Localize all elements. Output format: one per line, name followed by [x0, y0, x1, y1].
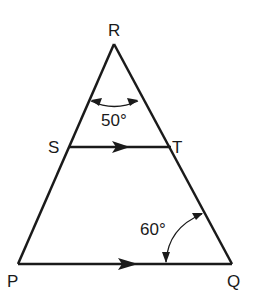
- arc-arrow-icon-top: [192, 213, 203, 220]
- vertex-label-t: T: [172, 138, 182, 157]
- triangle-diagram: R S T P Q 50° 60°: [0, 0, 260, 305]
- vertex-label-r: R: [108, 21, 120, 40]
- vertex-label-q: Q: [227, 272, 240, 291]
- angle-label-50: 50°: [101, 111, 127, 130]
- vertex-label-s: S: [48, 138, 59, 157]
- angle-label-60: 60°: [140, 220, 166, 239]
- angle-arc-q: [166, 214, 202, 262]
- side-rp: [18, 44, 114, 264]
- arc-arrow-icon-bottom: [162, 252, 170, 263]
- vertex-label-p: P: [7, 272, 18, 291]
